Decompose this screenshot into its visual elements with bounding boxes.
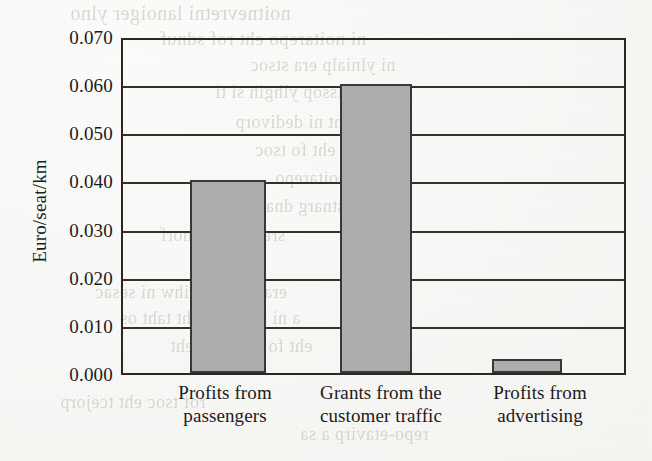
y-tick-label: 0.000 [33,364,113,386]
bar [190,180,266,373]
x-tick-label-line1: Profits from [149,381,301,404]
x-tick-label: Profits frompassengers [149,381,301,427]
y-tick-label: 0.030 [33,220,113,242]
y-tick-label: 0.060 [33,75,113,97]
y-tick-label: 0.010 [33,316,113,338]
x-tick-label-line2: passengers [149,404,301,427]
x-tick-label-line1: Grants from the [297,381,465,404]
x-tick-label: Profits fromadvertising [465,381,615,427]
x-tick-label: Grants from thecustomer traffic [297,381,465,427]
x-tick-label-line2: customer traffic [297,404,465,427]
y-tick-label: 0.070 [33,27,113,49]
y-tick-label: 0.040 [33,171,113,193]
y-tick-label: 0.050 [33,123,113,145]
y-tick-label: 0.020 [33,268,113,290]
bar [492,359,562,373]
x-tick-label-line1: Profits from [465,381,615,404]
bar [340,84,412,373]
plot-area [121,38,626,375]
x-tick-label-line2: advertising [465,404,615,427]
scanned-page-background: noitnevretni lanoiger ylnoni noitarepo e… [0,0,652,461]
bar-chart-figure: Euro/seat/km 0.0700.0600.0500.0400.0300.… [0,0,652,461]
